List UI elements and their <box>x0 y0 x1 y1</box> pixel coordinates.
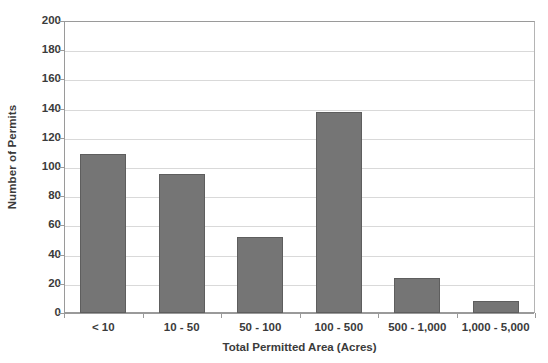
x-tick-label: 100 - 500 <box>314 321 363 334</box>
x-tick-mark <box>64 313 65 318</box>
y-tick-mark <box>59 109 64 110</box>
x-tick-mark <box>143 313 144 318</box>
y-tick-label: 80 <box>23 190 61 202</box>
bar[interactable] <box>237 237 283 313</box>
y-tick-label: 120 <box>23 132 61 144</box>
y-axis-tick-labels: 020406080100120140160180200 <box>18 0 61 363</box>
x-tick-label: 1,000 - 5,000 <box>462 321 530 334</box>
y-tick-label: 180 <box>23 44 61 56</box>
y-tick-label: 200 <box>23 15 61 27</box>
y-tick-label: 160 <box>23 74 61 86</box>
x-tick-label: 50 - 100 <box>239 321 281 334</box>
y-tick-mark <box>59 255 64 256</box>
bar-slot <box>221 21 300 313</box>
x-axis-title: Total Permitted Area (Acres) <box>64 341 535 353</box>
y-tick-mark <box>59 167 64 168</box>
bar-chart: Number of Permits 0204060801001201401601… <box>0 0 548 363</box>
bar[interactable] <box>80 154 126 313</box>
y-tick-mark <box>59 196 64 197</box>
y-tick-label: 20 <box>23 278 61 290</box>
y-tick-mark <box>59 225 64 226</box>
bar-slot <box>378 21 457 313</box>
y-tick-mark <box>59 50 64 51</box>
bar-slot <box>457 21 536 313</box>
bar-slot <box>64 21 143 313</box>
bar[interactable] <box>316 112 362 313</box>
x-tick-mark <box>300 313 301 318</box>
y-tick-mark <box>59 79 64 80</box>
x-tick-mark <box>221 313 222 318</box>
bars-layer <box>64 21 535 313</box>
y-tick-label: 60 <box>23 220 61 232</box>
x-tick-label: 500 - 1,000 <box>388 321 446 334</box>
x-tick-mark <box>535 313 536 318</box>
y-axis-title-text: Number of Permits <box>6 104 18 209</box>
y-tick-label: 0 <box>23 307 61 319</box>
y-tick-label: 140 <box>23 103 61 115</box>
bar-slot <box>143 21 222 313</box>
bar[interactable] <box>159 174 205 313</box>
y-tick-mark <box>59 21 64 22</box>
x-tick-mark <box>457 313 458 318</box>
y-tick-mark <box>59 138 64 139</box>
bar[interactable] <box>473 301 519 313</box>
y-tick-label: 40 <box>23 249 61 261</box>
x-tick-label: < 10 <box>92 321 115 334</box>
bar[interactable] <box>394 278 440 313</box>
x-tick-label: 10 - 50 <box>164 321 200 334</box>
x-tick-mark <box>378 313 379 318</box>
y-tick-mark <box>59 284 64 285</box>
bar-slot <box>300 21 379 313</box>
y-tick-label: 100 <box>23 161 61 173</box>
